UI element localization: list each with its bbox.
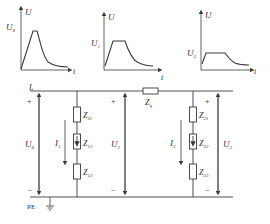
pe-label: PE [27,203,35,211]
minus-sign: − [205,186,210,195]
minus-sign: − [111,186,116,195]
svg-text:U0: U0 [25,139,35,150]
svg-text:Z22: Z22 [199,139,209,149]
circuit: Zq L PE U0 + − Z11 [25,83,233,211]
svg-text:Z23: Z23 [199,168,209,178]
minus-sign: − [28,186,33,195]
voltage-u2: U2 + − [205,95,233,195]
waveform-curve [202,53,249,65]
svg-text:Z11: Z11 [83,111,92,121]
svg-text:U2: U2 [223,139,233,150]
current-label-i1: I1 [54,138,61,149]
waveform-graph-u1: U t U1 [91,12,164,82]
surge-circuit-diagram: U t U0 U t U1 U t U2 Zq L PE [0,0,270,224]
impedance-z23 [190,164,197,179]
impedance-zq [143,88,158,94]
plus-sign: + [111,97,116,106]
waveform-curve [21,31,68,69]
impedance-z13 [74,164,81,179]
svg-text:Z13: Z13 [83,168,93,178]
current-label-i2: I2 [169,138,176,149]
branch-2: Z21 Z22 Z23 I2 [169,91,209,197]
waveform-graph-u2: U t U2 [187,10,257,76]
impedance-z21 [190,107,197,122]
level-label: U1 [91,38,100,49]
branch-1: Z11 Z12 Z13 I1 [54,91,93,197]
plus-sign: + [27,97,32,106]
x-axis-label: t [254,67,257,76]
x-axis-label: t [73,67,76,76]
svg-text:Z21: Z21 [199,111,208,121]
voltage-u1: U1 + − [111,95,125,195]
zq-label: Zq [145,98,152,108]
waveform-curve [105,41,153,66]
waveform-graph-u0: U t U0 [6,7,76,76]
line-label: L [28,83,34,92]
y-axis-label: U [205,10,212,20]
svg-text:Z12: Z12 [83,139,93,149]
level-label: U0 [6,22,16,33]
x-axis-label: t [161,73,164,82]
y-axis-label: U [108,12,115,22]
plus-sign: + [205,97,210,106]
impedance-z11 [74,107,81,122]
ground-icon [46,197,54,210]
voltage-u0: U0 + − [25,95,39,195]
y-axis-label: U [25,7,32,17]
svg-text:U1: U1 [111,139,120,150]
level-label: U2 [187,48,197,59]
